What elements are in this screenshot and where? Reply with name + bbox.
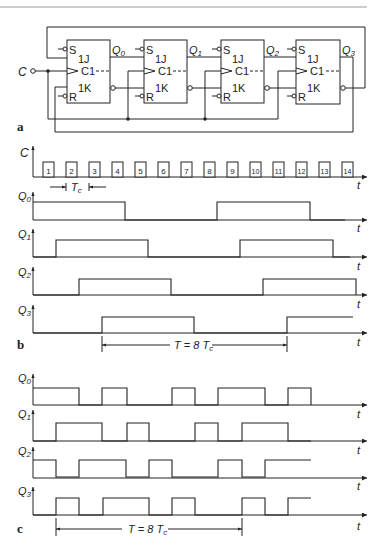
svg-text:3: 3 (92, 167, 97, 176)
tc-label: Tc (71, 181, 82, 195)
q3-signal-label-c: Q3 (18, 485, 32, 499)
svg-text:C1: C1 (310, 65, 324, 77)
clock-input-label: C (18, 65, 27, 79)
svg-text:1K: 1K (78, 82, 92, 94)
svg-text:t: t (357, 444, 361, 456)
svg-text:13: 13 (321, 168, 329, 175)
svg-text:t: t (357, 480, 361, 492)
panel-label-c: c (17, 521, 23, 536)
set-inversion-bubble (63, 47, 67, 51)
svg-text:1K: 1K (307, 82, 321, 94)
q1-signal-label-c: Q1 (18, 408, 31, 422)
flipflop-1: S 1J C1 1K R Q1 (135, 40, 202, 103)
clock-signal-label: C (20, 146, 29, 160)
q1-waveform-c (33, 423, 311, 441)
svg-text:t: t (357, 298, 361, 310)
johnson-counter-figure: C S 1J C1 1K R Q0 (0, 0, 384, 555)
q3-label: Q3 (342, 44, 356, 58)
q0-signal-label: Q0 (18, 190, 32, 204)
svg-text:1J: 1J (232, 53, 244, 65)
svg-text:C1: C1 (235, 65, 249, 77)
svg-text:7: 7 (184, 167, 189, 176)
svg-text:10: 10 (252, 168, 260, 175)
q3-waveform-b (33, 317, 353, 333)
svg-text:t: t (357, 222, 361, 234)
q1-signal-label: Q1 (18, 228, 31, 242)
q1-label: Q1 (189, 44, 202, 58)
svg-text:1K: 1K (232, 82, 246, 94)
svg-text:1: 1 (46, 167, 51, 176)
q3-waveform-c (33, 498, 311, 515)
clock-input-terminal (31, 69, 36, 74)
svg-text:14: 14 (344, 168, 352, 175)
svg-text:t: t (357, 408, 361, 420)
q1-waveform-b (33, 240, 350, 257)
q0-waveform-b (33, 202, 345, 220)
svg-text:11: 11 (275, 168, 282, 175)
q2-waveform-c (33, 460, 311, 477)
svg-text:C1: C1 (158, 65, 172, 77)
clock-pulses: 1 2 3 4 5 6 7 8 9 10 11 12 13 14 (43, 162, 353, 177)
q0-signal-label-c: Q0 (18, 372, 32, 386)
svg-text:C1: C1 (81, 65, 95, 77)
period-label-c: T = 8 Tc (128, 523, 167, 537)
svg-text:R: R (298, 91, 306, 103)
q2-signal-label: Q2 (18, 266, 32, 280)
svg-text:5: 5 (138, 167, 143, 176)
svg-text:S: S (223, 44, 230, 56)
timing-diagram-c: Q0 t Q1 t Q2 t Q3 t T = 8 Tc c (17, 372, 367, 537)
svg-text:9: 9 (230, 167, 235, 176)
svg-text:R: R (69, 91, 77, 103)
svg-text:1K: 1K (155, 82, 169, 94)
svg-text:1J: 1J (78, 53, 90, 65)
svg-text:6: 6 (161, 167, 166, 176)
svg-text:2: 2 (69, 167, 74, 176)
circuit-diagram: C S 1J C1 1K R Q0 (17, 27, 365, 134)
svg-text:S: S (298, 44, 305, 56)
svg-text:12: 12 (298, 168, 306, 175)
svg-text:t: t (357, 520, 361, 532)
q0-waveform-c (33, 388, 311, 405)
time-axis-label: t (357, 179, 361, 191)
flipflop-0: S 1J C1 1K R Q0 (58, 40, 126, 103)
period-label-b: T = 8 Tc (174, 339, 213, 353)
svg-text:S: S (69, 44, 76, 56)
svg-text:8: 8 (207, 167, 212, 176)
qbar-output-bubble (111, 86, 116, 91)
panel-label-b: b (17, 337, 24, 352)
svg-text:t: t (357, 260, 361, 272)
reset-inversion-bubble (63, 94, 67, 98)
q2-waveform-b (33, 279, 356, 295)
q3-signal-label: Q3 (18, 304, 32, 318)
junction-dot (46, 69, 50, 73)
svg-text:R: R (146, 91, 154, 103)
timing-diagram-b: C 1 2 3 4 5 6 7 8 9 10 11 12 13 14 t Tc … (17, 146, 367, 353)
svg-text:4: 4 (115, 167, 120, 176)
panel-label-a: a (17, 119, 24, 134)
q2-signal-label-c: Q2 (18, 445, 32, 459)
svg-text:t: t (357, 336, 361, 348)
svg-text:1J: 1J (307, 53, 319, 65)
svg-text:S: S (146, 44, 153, 56)
flipflop-2: S 1J C1 1K R Q2 (212, 40, 280, 103)
svg-text:R: R (223, 91, 231, 103)
q0-label: Q0 (112, 44, 126, 58)
flipflop-3: S 1J C1 1K R Q3 (287, 40, 356, 104)
q2-label: Q2 (266, 44, 280, 58)
svg-text:1J: 1J (155, 53, 167, 65)
